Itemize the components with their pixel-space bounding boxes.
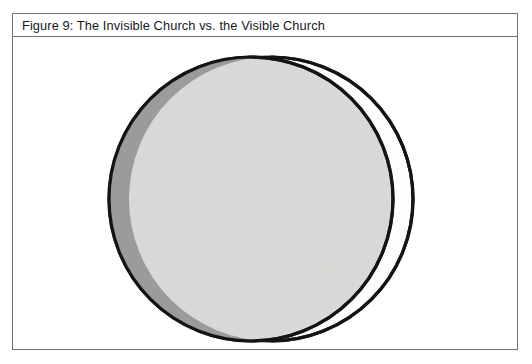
figure-drawing-canvas [13,37,517,350]
overlapping-circles-diagram [13,37,517,350]
figure-caption: Figure 9: The Invisible Church vs. the V… [22,17,325,34]
figure-root: Figure 9: The Invisible Church vs. the V… [0,0,532,364]
figure-frame: Figure 9: The Invisible Church vs. the V… [12,13,518,350]
figure-caption-bar: Figure 9: The Invisible Church vs. the V… [13,14,517,37]
